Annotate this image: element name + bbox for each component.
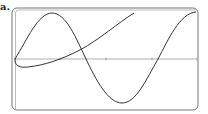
graph-window xyxy=(0,0,208,114)
sine-curve xyxy=(15,12,196,103)
